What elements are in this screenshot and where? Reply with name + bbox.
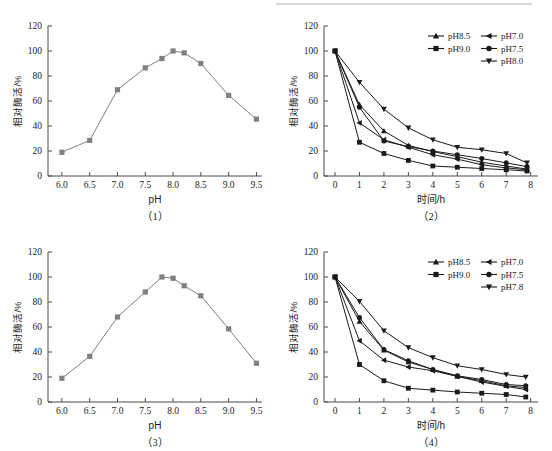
svg-text:20: 20 <box>33 372 43 382</box>
svg-text:120: 120 <box>28 21 43 31</box>
svg-text:7.5: 7.5 <box>139 180 151 190</box>
svg-text:120: 120 <box>28 247 43 257</box>
svg-text:pH9.0: pH9.0 <box>448 270 471 280</box>
svg-text:9.0: 9.0 <box>223 406 235 416</box>
svg-text:0: 0 <box>333 406 338 416</box>
svg-text:40: 40 <box>33 121 43 131</box>
svg-text:（3）: （3） <box>142 437 167 448</box>
svg-text:40: 40 <box>309 121 319 131</box>
svg-text:pH7.8: pH7.8 <box>501 282 524 292</box>
svg-text:pH7.0: pH7.0 <box>501 31 524 41</box>
panel-1-plot: 0204060801001206.06.57.07.58.08.59.09.5相… <box>0 0 276 225</box>
svg-text:0: 0 <box>313 171 318 181</box>
svg-text:100: 100 <box>28 46 43 56</box>
svg-text:7: 7 <box>504 406 509 416</box>
svg-text:0: 0 <box>37 171 42 181</box>
panel-3: 0204060801001206.06.57.07.58.08.59.09.5相… <box>0 226 276 451</box>
svg-text:0: 0 <box>333 180 338 190</box>
svg-text:1: 1 <box>357 406 362 416</box>
svg-text:相对酶活/%: 相对酶活/% <box>12 75 23 127</box>
svg-text:100: 100 <box>304 272 319 282</box>
svg-text:80: 80 <box>33 71 43 81</box>
svg-text:20: 20 <box>33 146 43 156</box>
svg-text:100: 100 <box>304 46 319 56</box>
svg-text:60: 60 <box>309 322 319 332</box>
svg-text:pH7.5: pH7.5 <box>501 44 524 54</box>
panel-4: 020406080100120012345678相对酶活/%时间/h（4）pH8… <box>276 226 552 451</box>
svg-text:9.5: 9.5 <box>251 406 263 416</box>
svg-text:7.0: 7.0 <box>112 180 124 190</box>
svg-text:3: 3 <box>406 180 411 190</box>
svg-text:5: 5 <box>455 180 460 190</box>
svg-text:60: 60 <box>309 96 319 106</box>
svg-text:2: 2 <box>382 180 387 190</box>
svg-text:pH: pH <box>149 194 162 205</box>
svg-text:pH8.0: pH8.0 <box>501 56 524 66</box>
svg-text:4: 4 <box>430 180 435 190</box>
svg-text:8.5: 8.5 <box>195 406 207 416</box>
svg-text:pH7.0: pH7.0 <box>501 257 524 267</box>
svg-text:8.0: 8.0 <box>167 406 179 416</box>
svg-text:40: 40 <box>309 347 319 357</box>
svg-text:4: 4 <box>430 406 435 416</box>
svg-text:5: 5 <box>455 406 460 416</box>
svg-text:（4）: （4） <box>418 437 443 448</box>
svg-text:pH: pH <box>149 420 162 431</box>
panel-1: 0204060801001206.06.57.07.58.08.59.09.5相… <box>0 0 276 225</box>
svg-text:60: 60 <box>33 96 43 106</box>
svg-text:相对酶活/%: 相对酶活/% <box>288 75 299 127</box>
svg-text:6.0: 6.0 <box>56 180 68 190</box>
svg-text:1: 1 <box>357 180 362 190</box>
svg-text:8: 8 <box>528 406 533 416</box>
svg-text:9.5: 9.5 <box>251 180 263 190</box>
svg-text:8: 8 <box>528 180 533 190</box>
svg-text:7.5: 7.5 <box>139 406 151 416</box>
svg-text:pH8.5: pH8.5 <box>448 257 471 267</box>
svg-text:6.0: 6.0 <box>56 406 68 416</box>
svg-text:3: 3 <box>406 406 411 416</box>
svg-text:40: 40 <box>33 347 43 357</box>
svg-text:9.0: 9.0 <box>223 180 235 190</box>
svg-text:（1）: （1） <box>142 211 167 222</box>
panel-3-plot: 0204060801001206.06.57.07.58.08.59.09.5相… <box>0 226 276 451</box>
svg-text:8.0: 8.0 <box>167 180 179 190</box>
svg-text:100: 100 <box>28 272 43 282</box>
panel-2: 020406080100120012345678相对酶活/%时间/h（2）pH8… <box>276 0 552 225</box>
svg-text:7: 7 <box>504 180 509 190</box>
svg-text:（2）: （2） <box>418 211 443 222</box>
svg-text:时间/h: 时间/h <box>417 419 445 431</box>
svg-text:20: 20 <box>309 372 319 382</box>
svg-text:60: 60 <box>33 322 43 332</box>
svg-text:0: 0 <box>313 397 318 407</box>
svg-text:7.0: 7.0 <box>112 406 124 416</box>
svg-text:8.5: 8.5 <box>195 180 207 190</box>
panel-4-plot: 020406080100120012345678相对酶活/%时间/h（4）pH8… <box>276 226 552 451</box>
svg-text:6: 6 <box>479 180 484 190</box>
svg-text:120: 120 <box>304 247 319 257</box>
svg-text:相对酶活/%: 相对酶活/% <box>288 301 299 353</box>
svg-text:120: 120 <box>304 21 319 31</box>
svg-text:6: 6 <box>479 406 484 416</box>
svg-text:2: 2 <box>382 406 387 416</box>
svg-text:pH7.5: pH7.5 <box>501 270 524 280</box>
figure-container: 0204060801001206.06.57.07.58.08.59.09.5相… <box>0 0 552 451</box>
svg-text:0: 0 <box>37 397 42 407</box>
svg-text:时间/h: 时间/h <box>417 193 445 205</box>
svg-text:80: 80 <box>33 297 43 307</box>
svg-text:相对酶活/%: 相对酶活/% <box>12 301 23 353</box>
svg-text:80: 80 <box>309 297 319 307</box>
svg-text:80: 80 <box>309 71 319 81</box>
panel-2-plot: 020406080100120012345678相对酶活/%时间/h（2）pH8… <box>276 0 552 225</box>
svg-text:pH8.5: pH8.5 <box>448 31 471 41</box>
svg-text:6.5: 6.5 <box>84 406 96 416</box>
svg-text:20: 20 <box>309 146 319 156</box>
svg-text:pH9.0: pH9.0 <box>448 44 471 54</box>
svg-text:6.5: 6.5 <box>84 180 96 190</box>
